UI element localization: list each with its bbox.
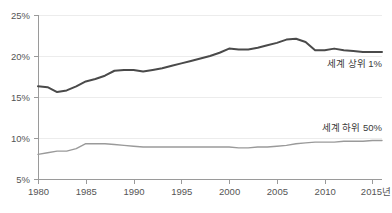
series-line-1 bbox=[38, 140, 382, 154]
y-tick-label-20pct: 20% bbox=[11, 51, 31, 62]
x-axis-group: 19801985199019952000200520102015년 bbox=[28, 180, 391, 198]
x-tick-label-2000: 2000 bbox=[219, 186, 240, 197]
x-tick-label-1980: 1980 bbox=[28, 186, 49, 197]
y-tick-label-5pct: 5% bbox=[16, 174, 30, 185]
gridlines-group bbox=[38, 16, 382, 180]
x-tick-label-2005: 2005 bbox=[267, 186, 288, 197]
series-labels-group: 세계 상위 1%세계 하위 50% bbox=[322, 58, 383, 132]
x-tick-label-2010: 2010 bbox=[315, 186, 336, 197]
line-chart: 25%20%15%10%5% 1980198519901995200020052… bbox=[0, 0, 392, 213]
chart-container: 25%20%15%10%5% 1980198519901995200020052… bbox=[0, 0, 392, 213]
series-label-1: 세계 하위 50% bbox=[322, 122, 383, 133]
y-tick-label-10pct: 10% bbox=[11, 133, 31, 144]
y-axis-group: 25%20%15%10%5% bbox=[11, 10, 39, 185]
y-tick-label-25pct: 25% bbox=[11, 10, 31, 21]
x-tick-label-1985: 1985 bbox=[76, 186, 97, 197]
x-tick-label-2015: 2015년 bbox=[361, 186, 391, 197]
series-label-0: 세계 상위 1% bbox=[327, 58, 383, 69]
x-tick-label-1995: 1995 bbox=[171, 186, 192, 197]
x-tick-label-1990: 1990 bbox=[123, 186, 144, 197]
y-tick-label-15pct: 15% bbox=[11, 92, 31, 103]
